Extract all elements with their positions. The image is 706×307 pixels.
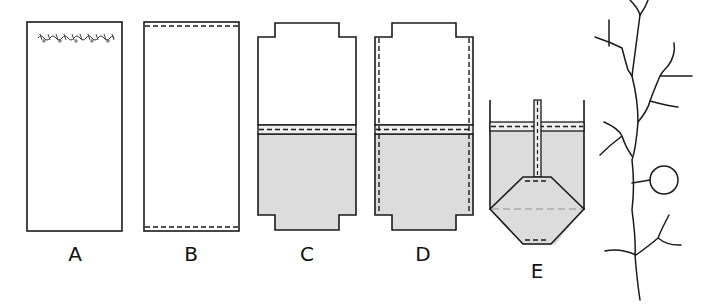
label-c: C	[300, 244, 314, 264]
label-e: E	[531, 261, 544, 281]
panel-c	[258, 23, 356, 230]
diagram-canvas	[0, 0, 706, 307]
panel-e	[490, 100, 584, 245]
branching-tree	[595, 0, 692, 300]
label-a: A	[68, 244, 82, 264]
label-b: B	[184, 244, 198, 264]
panel-b	[144, 22, 239, 231]
panel-a	[27, 22, 122, 231]
label-d: D	[415, 244, 430, 264]
circle-node	[650, 166, 678, 194]
panel-d	[375, 23, 473, 230]
